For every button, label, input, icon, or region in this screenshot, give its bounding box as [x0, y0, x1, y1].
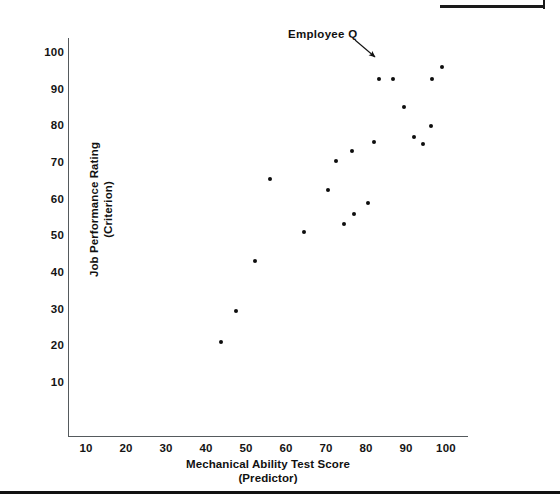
data-point [372, 140, 376, 144]
y-tick-label: 40 [30, 267, 64, 278]
data-point [302, 230, 306, 234]
y-tick-label: 70 [30, 157, 64, 168]
x-tick-label: 20 [106, 442, 146, 454]
data-point [219, 340, 223, 344]
data-point [421, 142, 425, 146]
data-point [391, 77, 395, 81]
x-tick-label: 40 [186, 442, 226, 454]
data-point [402, 105, 406, 109]
y-tick-label: 60 [30, 194, 64, 205]
data-point [366, 201, 370, 205]
x-tick-label: 10 [66, 442, 106, 454]
bottom-rule-decoration [0, 491, 560, 494]
data-point [334, 159, 338, 163]
scatter-plot-figure: 102030405060708090100 102030405060708090… [0, 0, 560, 501]
y-tick-label: 100 [30, 47, 64, 58]
x-tick-label: 30 [146, 442, 186, 454]
data-point [234, 309, 238, 313]
data-point [268, 177, 272, 181]
y-tick-label: 10 [30, 377, 64, 388]
data-point [326, 188, 330, 192]
x-axis-label-line2: (Predictor) [238, 472, 297, 484]
x-axis-label-line1: Mechanical Ability Test Score [186, 458, 350, 470]
x-tick-label: 70 [306, 442, 346, 454]
x-tick-label: 80 [346, 442, 386, 454]
plot-area [68, 38, 468, 437]
data-point [429, 124, 433, 128]
y-tick-label: 30 [30, 304, 64, 315]
top-rule-end-cap [543, 0, 545, 9]
data-point [342, 222, 346, 226]
data-point [352, 212, 356, 216]
data-point [377, 77, 381, 81]
data-point [253, 259, 257, 263]
x-tick-label: 90 [386, 442, 426, 454]
x-tick-label: 100 [426, 442, 466, 454]
y-axis-ticks: 102030405060708090100 [0, 0, 64, 501]
x-tick-label: 50 [226, 442, 266, 454]
y-tick-label: 80 [30, 120, 64, 131]
data-point [350, 149, 354, 153]
annotation-label-employee-q: Employee Q [288, 28, 357, 40]
data-point [430, 77, 434, 81]
x-axis-label: Mechanical Ability Test Score (Predictor… [128, 458, 408, 485]
data-point [412, 135, 416, 139]
top-rule-decoration [440, 5, 545, 8]
y-tick-label: 90 [30, 84, 64, 95]
x-tick-label: 60 [266, 442, 306, 454]
y-tick-label: 20 [30, 340, 64, 351]
y-tick-label: 50 [30, 230, 64, 241]
data-point [440, 65, 444, 69]
